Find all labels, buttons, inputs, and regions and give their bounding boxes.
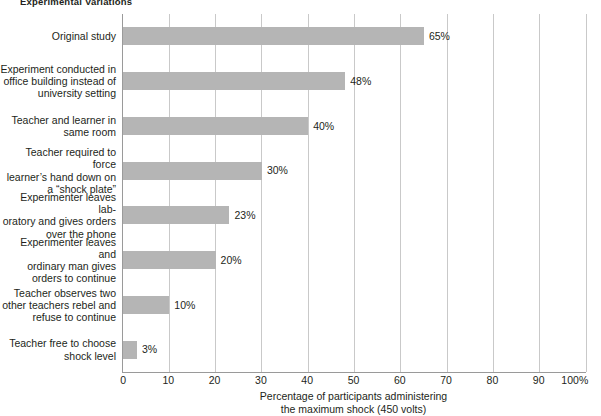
bar-row: 10% <box>123 283 586 328</box>
x-tick-label: 30 <box>255 374 267 386</box>
category-label: Experiment conducted inoffice building i… <box>0 59 116 104</box>
category-label-line: university setting <box>0 87 116 99</box>
category-label-line: oratory and gives orders <box>0 215 116 227</box>
chart-title: Experimental Variations <box>20 0 132 7</box>
x-tick-label: 0 <box>120 374 126 386</box>
bar-value-label: 40% <box>313 121 334 132</box>
bar-value-label: 30% <box>267 165 288 176</box>
x-axis-title-line-1: Percentage of participants administering <box>122 390 585 403</box>
category-label-line: Teacher required to force <box>0 146 116 170</box>
category-label-line: other teachers rebel and <box>0 299 116 311</box>
bar-row: 20% <box>123 238 586 283</box>
x-tick-label: 40 <box>301 374 313 386</box>
bar <box>123 72 345 90</box>
category-axis-labels: Original studyExperiment conducted inoff… <box>0 14 116 372</box>
category-label: Original study <box>0 14 116 59</box>
category-label-line: Teacher and learner in <box>0 114 116 126</box>
bar-row: 3% <box>123 327 586 372</box>
bar <box>123 27 424 45</box>
x-tick-label: 100% <box>561 374 588 386</box>
bar-value-label: 23% <box>234 210 255 221</box>
bar-row: 30% <box>123 148 586 193</box>
category-label-line: office building instead of <box>0 75 116 87</box>
category-label-line: Experimenter leaves and <box>0 236 116 260</box>
category-label: Teacher and learner insame room <box>0 104 116 149</box>
category-label-line: learner’s hand down on <box>0 171 116 183</box>
bars-layer: 65%48%40%30%23%20%10%3% <box>123 14 586 372</box>
bar-chart-figure: Experimental Variations Original studyEx… <box>0 0 601 416</box>
bar <box>123 251 216 269</box>
category-label: Experimenter leaves andordinary man give… <box>0 238 116 283</box>
x-tick-label: 90 <box>533 374 545 386</box>
bar-row: 48% <box>123 59 586 104</box>
bar-value-label: 20% <box>221 255 242 266</box>
plot-area: 65%48%40%30%23%20%10%3% <box>122 14 586 373</box>
x-axis-tick-labels: 0102030405060708090100% <box>122 374 585 388</box>
category-label-line: Teacher observes two <box>0 287 116 299</box>
category-label: Teacher observes twoother teachers rebel… <box>0 283 116 328</box>
bar <box>123 206 229 224</box>
bar <box>123 162 262 180</box>
x-axis-title-line-2: the maximum shock (450 volts) <box>122 403 585 416</box>
category-label-line: same room <box>0 126 116 138</box>
x-tick-label: 70 <box>440 374 452 386</box>
bar-value-label: 65% <box>429 31 450 42</box>
x-tick-label: 60 <box>394 374 406 386</box>
x-tick-label: 80 <box>487 374 499 386</box>
bar-value-label: 48% <box>350 76 371 87</box>
category-label-line: shock level <box>0 350 116 362</box>
x-axis-title: Percentage of participants administering… <box>122 390 585 415</box>
x-tick-label: 50 <box>348 374 360 386</box>
bar <box>123 341 137 359</box>
bar-row: 23% <box>123 193 586 238</box>
category-label: Experimenter leaves lab-oratory and give… <box>0 193 116 238</box>
category-label: Teacher required to forcelearner’s hand … <box>0 148 116 193</box>
category-label-line: Experimenter leaves lab- <box>0 191 116 215</box>
bar-row: 40% <box>123 104 586 149</box>
category-label-line: Original study <box>0 30 116 42</box>
category-label-line: Teacher free to choose <box>0 337 116 349</box>
x-tick-label: 10 <box>162 374 174 386</box>
category-label-line: ordinary man gives <box>0 260 116 272</box>
bar-value-label: 10% <box>174 300 195 311</box>
bar <box>123 117 308 135</box>
bar <box>123 296 169 314</box>
category-label-line: Experiment conducted in <box>0 63 116 75</box>
x-tick-label: 20 <box>209 374 221 386</box>
category-label-line: refuse to continue <box>0 311 116 323</box>
category-label: Teacher free to chooseshock level <box>0 327 116 372</box>
bar-value-label: 3% <box>142 344 157 355</box>
bar-row: 65% <box>123 14 586 59</box>
